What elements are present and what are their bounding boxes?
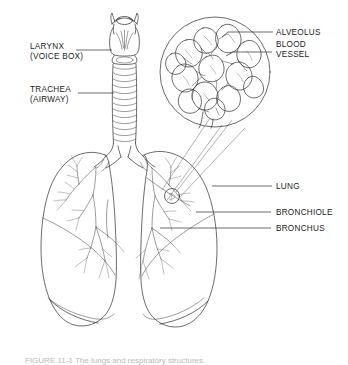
- label-bronchus: BRONCHUS: [276, 224, 325, 233]
- respiratory-diagram-figure: LARYNX (VOICE BOX) TRACHEA (AIRWAY) ALVE…: [0, 0, 348, 365]
- diagram-canvas: LARYNX (VOICE BOX) TRACHEA (AIRWAY) ALVE…: [0, 0, 348, 365]
- label-alveolus: ALVEOLUS: [276, 28, 321, 37]
- label-larynx-line2: (VOICE BOX): [30, 52, 83, 61]
- figure-caption: FIGURE 11-1 The lungs and respiratory st…: [25, 356, 205, 365]
- label-trachea-line2: (AIRWAY): [30, 95, 69, 104]
- label-trachea-line1: TRACHEA: [30, 85, 71, 94]
- label-larynx-line1: LARYNX: [30, 42, 64, 51]
- label-blood-vessel-line1: BLOOD: [276, 40, 306, 49]
- label-lung: LUNG: [276, 182, 300, 191]
- label-blood-vessel-line2: VESSEL: [276, 50, 310, 59]
- label-bronchiole: BRONCHIOLE: [276, 208, 333, 217]
